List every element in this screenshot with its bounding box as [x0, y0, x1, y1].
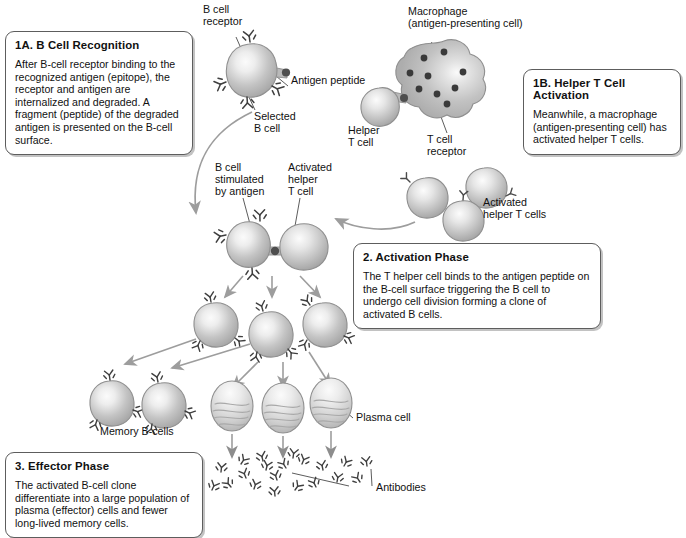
label-activated-helper-t-cell: Activated helper T cell	[288, 161, 332, 198]
antigen-bridge-dot	[271, 247, 279, 255]
activated-helper-t-body	[280, 224, 328, 270]
antibody-secretion-arrows	[232, 431, 331, 457]
clone-b-cells	[191, 292, 355, 363]
callout-3-title: 3. Effector Phase	[15, 460, 193, 472]
helper-t-cell-body	[361, 88, 399, 127]
clone-b-cell	[297, 294, 355, 351]
label-macrophage: Macrophage (antigen-presenting cell)	[408, 5, 523, 29]
label-b-cell-stimulated: B cell stimulated by antigen	[215, 161, 264, 198]
memory-b-cell	[89, 370, 144, 431]
t-cell-receptor-dot	[400, 94, 408, 102]
callout-2-activation-phase: 2. Activation Phase The T helper cell bi…	[353, 243, 601, 329]
callout-1b-body: Meanwhile, a macrophage (antigen-present…	[533, 108, 671, 146]
macrophage-group	[396, 40, 486, 118]
selected-b-cell-group	[213, 30, 290, 108]
label-helper-t-cell: Helper T cell	[348, 124, 379, 148]
plasma-cells	[211, 378, 352, 433]
clone-division-arrows	[225, 276, 320, 297]
activation-complex	[214, 210, 328, 280]
callout-1a-body: After B-cell receptor binding to the rec…	[15, 58, 183, 146]
plasma-cell	[262, 383, 304, 433]
callout-2-body: The T helper cell binds to the antigen p…	[363, 270, 591, 320]
plasma-cell	[211, 381, 253, 431]
label-selected-b-cell: Selected B cell	[254, 110, 296, 134]
antigen-peptide-dot	[282, 68, 290, 76]
clone-b-cell	[191, 292, 246, 352]
label-activated-helper-t-cells: Activated helper T cells	[483, 196, 546, 220]
label-b-cell-receptor: B cell receptor	[203, 3, 242, 27]
callout-3-effector-phase: 3. Effector Phase The activated B-cell c…	[5, 452, 203, 538]
helper-t-cell-group	[361, 88, 408, 127]
callout-1b-helper-t-cell-activation: 1B. Helper T Cell Activation Meanwhile, …	[523, 69, 681, 155]
label-antibodies: Antibodies	[376, 481, 426, 493]
plasma-cell	[310, 378, 352, 428]
clone-b-cell	[249, 300, 298, 362]
callout-1b-title: 1B. Helper T Cell Activation	[533, 77, 671, 101]
b-cell-stimulated-body	[227, 222, 271, 268]
immune-response-diagram: B cell receptor Antigen peptide Selected…	[0, 0, 686, 538]
callout-2-title: 2. Activation Phase	[363, 251, 591, 263]
callout-1a-b-cell-recognition: 1A. B Cell Recognition After B-cell rece…	[5, 31, 193, 155]
label-antigen-peptide: Antigen peptide	[291, 74, 365, 86]
label-t-cell-receptor: T cell receptor	[427, 133, 466, 157]
label-plasma-cell: Plasma cell	[356, 411, 411, 423]
callout-3-body: The activated B-cell clone differentiate…	[15, 479, 193, 529]
callout-1a-title: 1A. B Cell Recognition	[15, 39, 183, 51]
arrow-tcell-to-activation	[336, 219, 415, 229]
label-memory-b-cells: Memory B-cells	[100, 425, 174, 437]
